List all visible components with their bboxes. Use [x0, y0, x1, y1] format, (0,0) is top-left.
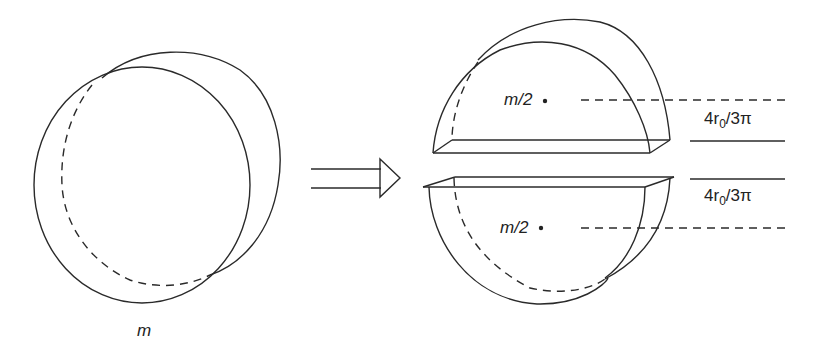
- disk-hidden-edge: [62, 85, 210, 285]
- transform-arrow-icon: [311, 159, 400, 197]
- lower-distance-main: 4r: [704, 186, 719, 205]
- whole-mass-label: m: [137, 322, 151, 339]
- disk-back-face: [102, 52, 280, 275]
- disk-front-face: [34, 67, 250, 303]
- lower-distance-subscript: 0: [719, 194, 726, 208]
- upper-mass-label: m/2: [504, 91, 532, 108]
- lower-distance-suffix: /3π: [726, 186, 752, 205]
- lower-distance-label: 4r0/3π: [704, 187, 752, 204]
- upper-half-disk: [433, 20, 788, 153]
- upper-distance-suffix: /3π: [726, 109, 752, 128]
- upper-distance-subscript: 0: [719, 117, 726, 131]
- lower-mass-label: m/2: [500, 219, 528, 236]
- upper-distance-main: 4r: [704, 109, 719, 128]
- upper-distance-label: 4r0/3π: [704, 110, 752, 127]
- diagram-canvas: [0, 0, 822, 354]
